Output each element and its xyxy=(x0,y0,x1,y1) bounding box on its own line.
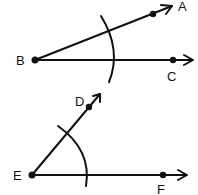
angle-copy-diagram: A B C D E F xyxy=(0,0,198,195)
label-f: F xyxy=(157,182,165,195)
point-a xyxy=(150,11,156,17)
angle-abc-figure: A B C xyxy=(16,0,193,84)
label-a: A xyxy=(178,0,187,14)
label-b: B xyxy=(16,53,25,68)
label-e: E xyxy=(13,168,22,183)
label-c: C xyxy=(167,69,176,84)
angle-def-figure: D E F xyxy=(13,94,187,195)
compass-arc-bottom xyxy=(58,126,87,186)
point-d xyxy=(86,104,92,110)
vertex-b xyxy=(32,57,39,64)
compass-arc-top xyxy=(101,16,114,82)
point-f xyxy=(160,172,166,178)
vertex-e xyxy=(29,172,36,179)
point-c xyxy=(170,57,176,63)
label-d: D xyxy=(75,94,84,109)
